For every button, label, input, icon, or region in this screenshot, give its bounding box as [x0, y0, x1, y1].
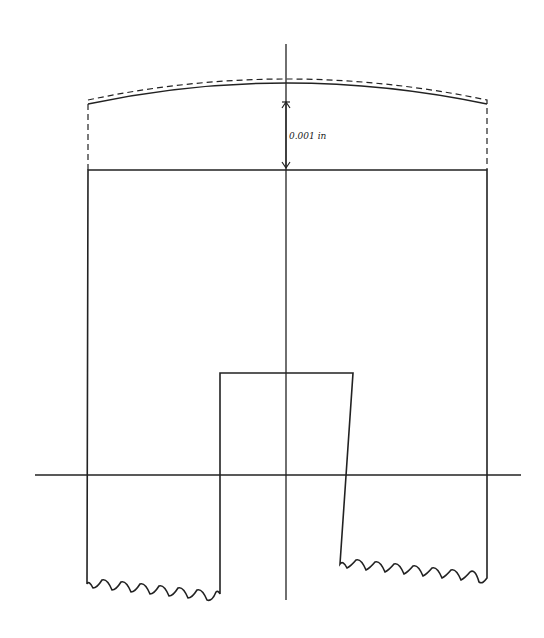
body-outline	[87, 170, 487, 600]
dimension-label: 0.001 in	[289, 131, 327, 141]
diagram-canvas: 0.001 in	[0, 0, 544, 638]
solid-deformed-curve	[88, 83, 487, 104]
